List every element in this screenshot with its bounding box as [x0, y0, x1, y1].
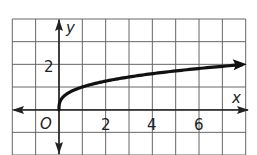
y-axis-label: y [65, 19, 76, 37]
x-tick-4: 4 [147, 116, 157, 134]
origin-label: O [40, 115, 52, 133]
y-tick-2: 2 [44, 58, 54, 76]
x-tick-2: 2 [101, 116, 111, 134]
x-axis-label: x [231, 89, 241, 107]
x-tick-6: 6 [194, 116, 204, 134]
x-axis [12, 106, 249, 114]
graph: y x O 2 4 6 2 [0, 0, 257, 155]
grid-lines [12, 19, 245, 155]
